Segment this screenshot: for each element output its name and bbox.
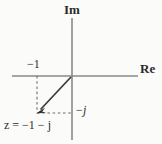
real-axis-label: Re: [140, 62, 155, 75]
complex-plane-figure: Im Re −1 −j z = −1 − j: [0, 0, 162, 144]
tick-label-negative-one: −1: [27, 58, 40, 70]
tick-label-negative-j: −j: [75, 104, 86, 116]
imaginary-axis-label: Im: [64, 3, 80, 16]
point-label-z: z = −1 − j: [4, 119, 51, 131]
vector-z: [41, 77, 72, 110]
